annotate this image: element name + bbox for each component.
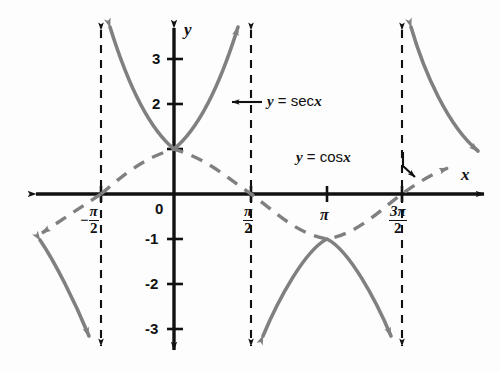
- y-tick-label-minus-1: -1: [145, 230, 158, 247]
- x-tick-label-pi: π: [320, 206, 329, 224]
- figure-sec-cos-graph: y x 0 3 2 -1 -2 -3 − π 2 π 2 π 3π 2 y = …: [0, 0, 500, 372]
- cos-curve-label: y = cosx: [296, 148, 351, 166]
- y-tick-label-2: 2: [152, 95, 160, 112]
- y-tick-label-minus-2: -2: [145, 275, 158, 292]
- y-axis-label: y: [184, 20, 192, 40]
- fraction-3pi-over-2: 3π 2: [389, 204, 407, 237]
- y-tick-label-minus-3: -3: [145, 320, 158, 337]
- sec-branch-lower-left: [40, 240, 89, 336]
- x-axis-label: x: [461, 165, 470, 185]
- sec-curve: [40, 27, 478, 336]
- fraction-pi-over-2: π 2: [89, 204, 99, 237]
- graph-canvas: [0, 0, 500, 372]
- y-tick-label-3: 3: [152, 50, 160, 67]
- origin-label: 0: [155, 200, 163, 217]
- x-tick-label-neg-half-pi: − π 2: [80, 204, 99, 237]
- cos-label-pointer: [403, 152, 415, 177]
- sec-curve-label: y = secx: [267, 92, 322, 110]
- sec-branch-lower-middle: [263, 239, 391, 336]
- x-tick-label-half-pi: π 2: [243, 204, 253, 237]
- minus-sign: −: [80, 212, 89, 229]
- asymptote-lines: [101, 30, 402, 346]
- x-tick-label-three-half-pi: 3π 2: [389, 204, 407, 237]
- fraction-pi-over-2: π 2: [243, 204, 253, 237]
- sec-branch-upper-right: [411, 27, 478, 151]
